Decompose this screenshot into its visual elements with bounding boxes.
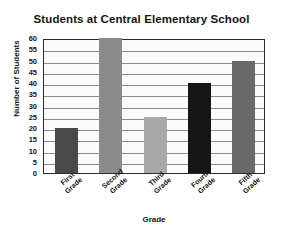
y-tick-label: 60 (29, 35, 37, 43)
y-tick-label: 20 (29, 125, 37, 133)
y-tick-label: 40 (29, 80, 37, 88)
y-tick-label: 35 (29, 91, 37, 99)
x-axis-title: Grade (43, 215, 265, 224)
y-tick-label: 30 (29, 103, 37, 111)
bar (188, 83, 211, 173)
x-axis-tick-labels: FirstGradeSecondGradeThirdGradeFourthGra… (43, 176, 265, 214)
bar (144, 117, 167, 173)
y-tick-label: 45 (29, 69, 37, 77)
bar (99, 38, 122, 173)
plot-area (43, 39, 265, 174)
bar-series (44, 40, 264, 173)
chart-title: Students at Central Elementary School (0, 13, 283, 25)
bar-chart: Students at Central Elementary School Nu… (0, 0, 283, 233)
y-tick-label: 0 (33, 170, 37, 178)
y-axis-tick-labels: 051015202530354045505560 (0, 39, 40, 174)
y-tick-label: 5 (33, 159, 37, 167)
y-tick-label: 15 (29, 136, 37, 144)
y-tick-label: 50 (29, 58, 37, 66)
y-tick-label: 25 (29, 114, 37, 122)
bar (232, 61, 255, 174)
y-tick-label: 10 (29, 148, 37, 156)
y-tick-label: 55 (29, 46, 37, 54)
